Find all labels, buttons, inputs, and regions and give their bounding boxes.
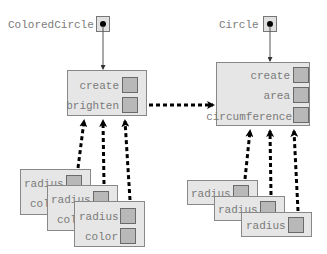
method-area-label: area <box>264 90 290 102</box>
pointer-dot-icon <box>100 21 106 27</box>
circle-method-table: create area circumference <box>216 62 310 126</box>
circle-pointer <box>263 16 277 32</box>
method-create-slot <box>122 77 138 93</box>
field-color-label: color <box>85 231 118 243</box>
method-brighten-label: brighten <box>66 100 119 112</box>
field-radius-label: radius <box>79 211 119 223</box>
field-radius-slot <box>288 217 304 233</box>
method-create-label: create <box>250 70 290 82</box>
pointer-dot-icon <box>267 21 273 27</box>
circle-variable-label: Circle <box>219 19 259 31</box>
colored-circle-pointer <box>96 16 110 32</box>
field-radius-label: radius <box>246 220 286 232</box>
method-circumference-label: circumference <box>206 111 292 123</box>
method-brighten-slot <box>122 97 138 113</box>
method-create-slot <box>293 67 309 83</box>
circle-instance-3: radius <box>241 212 312 237</box>
field-color-slot <box>120 228 136 244</box>
colored-circle-method-table: create brighten <box>67 70 147 116</box>
colored-circle-variable-label: ColoredCircle <box>8 19 94 31</box>
field-radius-slot <box>120 208 136 224</box>
method-circumference-slot <box>293 107 309 123</box>
method-area-slot <box>293 87 309 103</box>
method-create-label: create <box>79 80 119 92</box>
colored-circle-instance-3: radius color <box>74 201 145 247</box>
